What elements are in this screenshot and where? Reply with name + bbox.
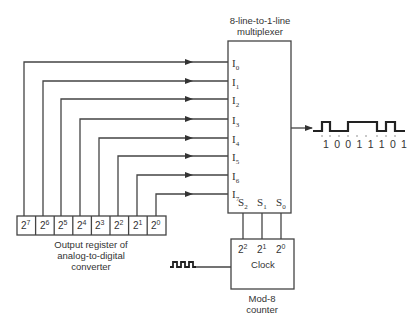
arrow-icon [185, 116, 193, 122]
wire-bit2-to-i5 [118, 156, 228, 216]
parallel-to-serial-diagram: 8-line-to-1-line multiplexer I0 I1 I2 I3… [0, 0, 418, 326]
register-caption-line1: Output register of [54, 239, 128, 250]
register-caption-line3: converter [71, 261, 111, 272]
register-caption-line2: analog-to-digital [57, 250, 125, 261]
output-register: 27 26 25 24 23 22 21 20 Output register … [17, 216, 166, 272]
input-wires [24, 59, 228, 216]
wire-bit0-to-i7 [156, 194, 228, 216]
waveform-bits-label: 1 0 0 1 1 1 0 1 [323, 138, 408, 150]
multiplexer-title-line1: 8-line-to-1-line [230, 15, 291, 26]
clock-label: Clock [251, 259, 275, 270]
serial-waveform [313, 122, 405, 131]
clock-input [170, 262, 231, 267]
arrow-icon [185, 153, 193, 159]
output-waveform: 1 0 0 1 1 1 0 1 [313, 122, 408, 150]
wire-bit5-to-i2 [61, 99, 228, 216]
wire-bit4-to-i3 [80, 119, 228, 216]
arrow-icon [185, 172, 193, 178]
counter-caption-line1: Mod-8 [249, 293, 276, 304]
wire-bit6-to-i1 [43, 81, 228, 216]
arrow-icon [185, 191, 193, 197]
arrow-icon [185, 96, 193, 102]
arrow-icon [185, 59, 193, 65]
wire-bit1-to-i6 [137, 175, 228, 216]
arrow-icon [185, 135, 193, 141]
arrow-icon [185, 78, 193, 84]
clock-waveform [170, 262, 196, 267]
wire-bit7-to-i0 [24, 62, 228, 216]
select-wires [243, 213, 281, 239]
multiplexer-title-line2: multiplexer [237, 26, 283, 37]
counter-caption-line2: counter [246, 304, 278, 315]
mod8-counter: 22 21 20 Clock Mod-8 counter [231, 239, 294, 315]
